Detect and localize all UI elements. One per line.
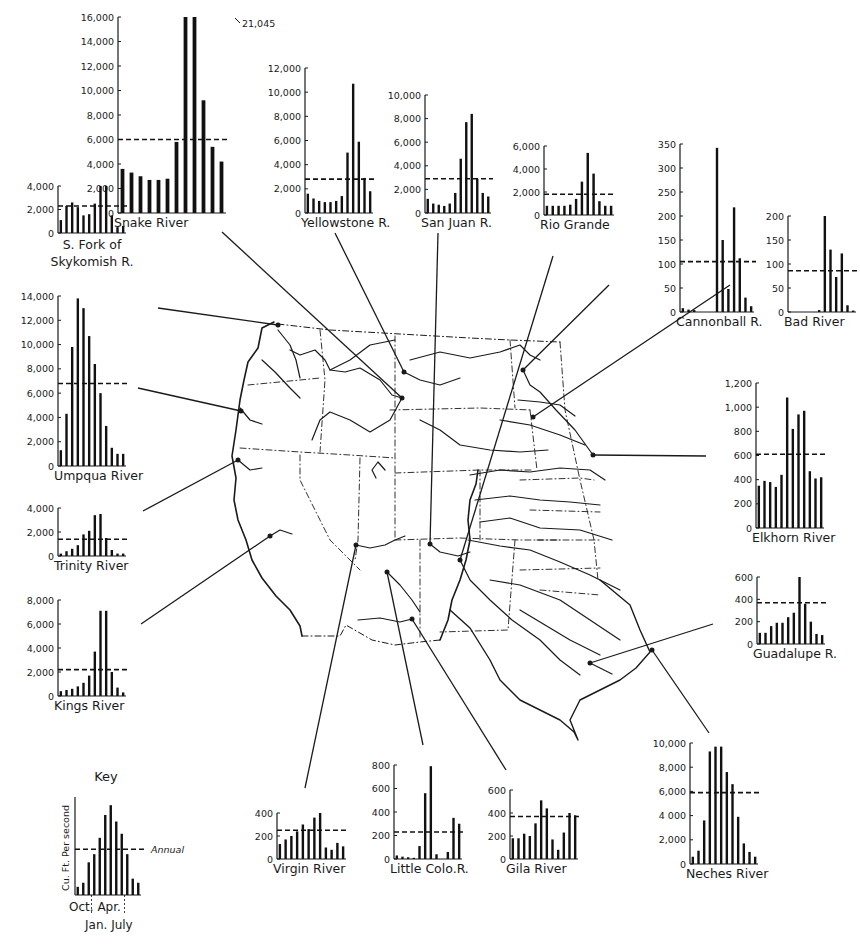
hydrograph-riogrande: 02,0004,0006,000Rio Grande — [513, 141, 616, 233]
y-tick-label: 12,000 — [21, 315, 54, 326]
bar-Feb — [569, 205, 571, 215]
bar-Feb — [82, 215, 84, 233]
hydrograph-yellowstone: 02,0004,0006,0008,00010,00012,000Yellows… — [268, 63, 391, 231]
bar-Apr — [793, 613, 795, 644]
hydrograph-littlecolo: 0200400600800Little Colo.R. — [372, 760, 469, 877]
bar-Aug — [132, 879, 134, 895]
y-tick-label: 2,000 — [27, 667, 54, 678]
bar-May — [99, 186, 101, 233]
key-title: Key — [94, 769, 118, 784]
y-tick-label: 2,000 — [513, 187, 540, 198]
y-tick-label: 50 — [664, 283, 676, 294]
bar-Jul — [111, 215, 113, 233]
hydrograph-key: KeyCu. Ft. Per secondAnnualOct. Apr.Jan.… — [60, 769, 184, 932]
bar-Jun — [325, 848, 327, 860]
bar-Mar — [88, 676, 90, 696]
bar-Feb — [82, 308, 84, 466]
bar-Aug — [748, 852, 750, 864]
west-coast-outline — [232, 322, 302, 636]
bar-May — [99, 514, 101, 556]
y-tick-label: 6,000 — [394, 137, 421, 148]
western-us-map — [232, 322, 655, 740]
bar-Nov — [401, 857, 403, 859]
bar-Sep — [122, 692, 124, 696]
bar-Feb — [534, 823, 536, 859]
bar-Apr — [313, 818, 315, 859]
hydrograph-guadalupe: 0200400600Guadalupe R. — [735, 572, 837, 662]
leader-line-elkhorn — [593, 455, 706, 456]
bar-Dec — [557, 206, 559, 215]
bar-Oct — [758, 486, 760, 528]
bar-Nov — [65, 551, 67, 556]
y-tick-label: 4,000 — [87, 159, 114, 170]
bar-Aug — [452, 818, 454, 859]
bar-Mar — [540, 800, 542, 859]
y-tick-label: 2,000 — [27, 527, 54, 538]
bar-Jan — [776, 623, 778, 644]
bar-May — [184, 17, 188, 213]
bar-Oct — [396, 855, 398, 859]
bar-Aug — [568, 813, 570, 859]
bar-Sep — [610, 206, 612, 215]
hydrograph-neches: 02,0004 0006,0008,00010,000Neches River — [653, 738, 770, 882]
bar-Dec — [769, 482, 771, 528]
y-tick-label: 6,000 — [513, 141, 540, 152]
y-tick-label: 300 — [658, 163, 676, 174]
chart-title: Cannonball R. — [676, 314, 763, 329]
bar-Jun — [835, 277, 837, 312]
leader-line-yellowstone — [335, 233, 404, 372]
leader-line-guadalupe — [590, 624, 713, 663]
bar-Aug — [363, 178, 365, 213]
bar-Nov — [432, 204, 434, 213]
bar-Mar — [166, 179, 170, 213]
y-tick-label: 4,000 — [27, 503, 54, 514]
y-tick-label: 2,000 — [27, 204, 54, 215]
bar-May — [587, 153, 589, 215]
bar-Dec — [71, 202, 73, 233]
bar-Jul — [733, 207, 735, 312]
bar-May — [731, 784, 733, 864]
bar-Sep — [821, 635, 823, 644]
y-tick-label: 800 — [734, 426, 752, 437]
bar-Mar — [454, 193, 456, 213]
bar-Aug — [814, 478, 816, 528]
bar-Jan — [77, 207, 79, 233]
bar-Mar — [818, 310, 820, 312]
bar-Feb — [329, 202, 331, 213]
bar-May — [797, 414, 799, 528]
bar-Apr — [94, 652, 96, 696]
bar-Oct — [60, 450, 62, 466]
bar-Jan — [93, 854, 95, 895]
bar-Sep — [458, 824, 460, 859]
bar-Nov — [763, 481, 765, 528]
leader-line-skykomish — [158, 308, 278, 325]
bar-Aug — [815, 634, 817, 644]
bar-May — [319, 813, 321, 859]
y-tick-label: 150 — [658, 235, 676, 246]
y-tick-label: 2,000 — [659, 834, 686, 845]
bar-Jun — [105, 611, 107, 696]
chart-title: Little Colo.R. — [390, 861, 469, 876]
bar-Sep — [487, 196, 489, 213]
bar-May — [465, 122, 467, 213]
bar-Jun — [193, 17, 197, 213]
bar-Mar — [88, 336, 90, 466]
bar-Jul — [202, 100, 206, 213]
leader-lines — [138, 232, 730, 788]
bar-Sep — [342, 846, 344, 859]
bar-Nov — [764, 633, 766, 644]
bar-Jan — [775, 487, 777, 528]
leader-line-kings — [141, 536, 270, 624]
y-tick-label: 12,000 — [268, 63, 301, 74]
hydrograph-virgin: 0200400Virgin River — [255, 808, 348, 877]
y-tick-label: 4,000 — [513, 164, 540, 175]
bar-Feb — [157, 180, 161, 213]
y-tick-label: 100 — [658, 259, 676, 270]
y-tick-label: 12,000 — [81, 61, 114, 72]
bar-Oct — [692, 857, 694, 864]
y-tick-label: 6,000 — [659, 786, 686, 797]
bar-Dec — [71, 689, 73, 696]
bar-Apr — [716, 148, 718, 312]
bar-Oct — [427, 199, 429, 213]
y-tick-label: 4,000 — [27, 181, 54, 192]
